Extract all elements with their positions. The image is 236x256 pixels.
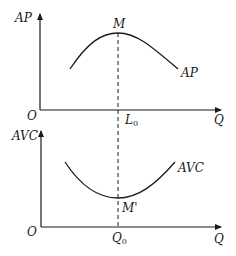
l0-label: L0 bbox=[124, 113, 138, 128]
top-panel: AP O Q M AP L0 bbox=[14, 11, 224, 128]
bottom-x-axis-label: Q bbox=[214, 232, 224, 246]
ap-avc-diagram: AP O Q M AP L0 AVC O Q M' AVC Q0 bbox=[0, 0, 236, 256]
min-label-m-prime: M' bbox=[121, 201, 138, 215]
top-x-axis-label: Q bbox=[214, 113, 224, 127]
top-origin-label: O bbox=[27, 109, 37, 123]
q0-label: Q0 bbox=[112, 231, 127, 246]
ap-curve bbox=[70, 33, 178, 69]
avc-curve-label: AVC bbox=[177, 161, 204, 175]
bottom-origin-label: O bbox=[27, 225, 37, 239]
peak-label-m: M bbox=[112, 17, 126, 31]
top-y-axis-label: AP bbox=[14, 11, 33, 25]
avc-curve bbox=[65, 162, 175, 198]
ap-curve-label: AP bbox=[180, 66, 199, 80]
bottom-y-axis-label: AVC bbox=[11, 129, 38, 143]
